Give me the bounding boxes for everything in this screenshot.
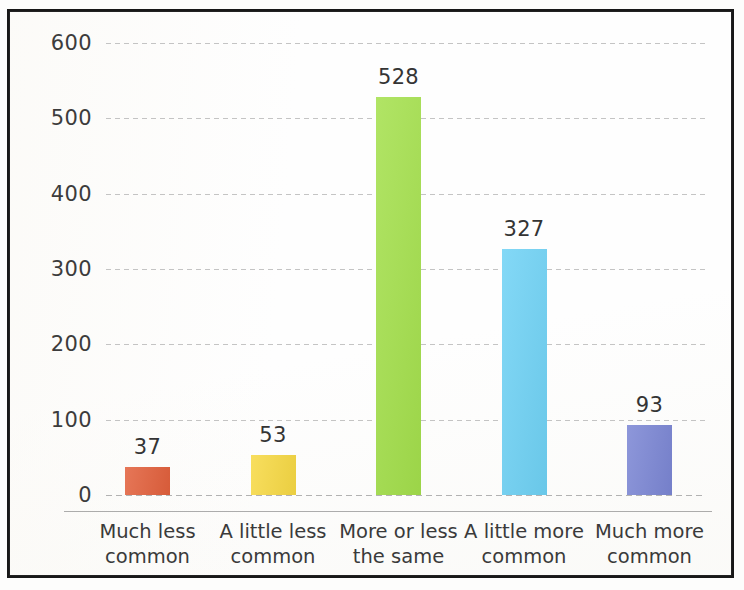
bar-value-label-1: 37 — [93, 435, 203, 459]
y-axis-tick-label-100: 100 — [14, 407, 92, 431]
category-label-line-1: A little more — [464, 520, 584, 543]
category-label-line-2: the same — [329, 544, 469, 569]
bar-value-label-4: 327 — [469, 217, 579, 241]
category-label-line-1: Much more — [595, 520, 704, 543]
bar-value-label-3: 528 — [344, 65, 454, 89]
bar-shading — [376, 97, 421, 495]
chart-frame: 0100200300400500600375352832793Much less… — [7, 9, 734, 578]
bar-2[interactable] — [251, 455, 296, 495]
bar-shading — [125, 467, 170, 495]
y-axis-tick-label-200: 200 — [14, 332, 92, 356]
category-label-line-2: common — [454, 544, 594, 569]
bar-value-label-2: 53 — [218, 423, 328, 447]
x-axis-category-label-5: Much morecommon — [580, 519, 720, 569]
bar-4[interactable] — [502, 249, 547, 495]
y-axis-tick-label-600: 600 — [14, 31, 92, 55]
category-label-line-1: More or less — [339, 520, 457, 543]
bar-1[interactable] — [125, 467, 170, 495]
category-label-line-1: A little less — [219, 520, 326, 543]
chart-screenshot: 0100200300400500600375352832793Much less… — [0, 0, 744, 590]
bar-shading — [251, 455, 296, 495]
bar-shading — [627, 425, 672, 495]
bar-shading — [502, 249, 547, 495]
category-label-line-2: common — [203, 544, 343, 569]
x-axis-category-label-1: Much lesscommon — [78, 519, 218, 569]
bar-value-label-5: 93 — [595, 393, 705, 417]
category-label-line-2: common — [580, 544, 720, 569]
category-label-line-2: common — [78, 544, 218, 569]
plot-area: 0100200300400500600375352832793Much less… — [10, 12, 731, 575]
x-axis-category-label-2: A little lesscommon — [203, 519, 343, 569]
y-axis-tick-label-500: 500 — [14, 106, 92, 130]
y-axis-tick-label-0: 0 — [14, 483, 92, 507]
x-axis-rule — [64, 511, 712, 512]
x-axis-category-label-3: More or lessthe same — [329, 519, 469, 569]
y-axis-tick-label-400: 400 — [14, 181, 92, 205]
gridline-600 — [106, 43, 706, 44]
x-axis-category-label-4: A little morecommon — [454, 519, 594, 569]
category-label-line-1: Much less — [99, 520, 195, 543]
gridline-0 — [106, 495, 706, 496]
y-axis-tick-label-300: 300 — [14, 257, 92, 281]
bar-5[interactable] — [627, 425, 672, 495]
bar-3[interactable] — [376, 97, 421, 495]
